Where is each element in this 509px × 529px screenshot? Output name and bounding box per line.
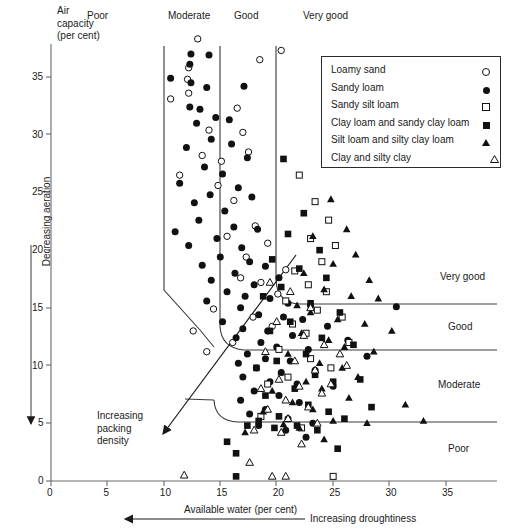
- data-point: [237, 275, 243, 281]
- data-point: [218, 158, 224, 164]
- legend-marker-filled-triangle-icon: [482, 137, 490, 148]
- data-point: [234, 105, 240, 111]
- data-point: [199, 262, 206, 269]
- data-point: [224, 233, 230, 239]
- legend-item-clay-loam-and-sandy-clay-loam[interactable]: Clay loam and sandy clay loam: [331, 115, 492, 133]
- data-point: [337, 309, 344, 316]
- series-silt-loam-and-silty-clay-loam: [241, 195, 427, 442]
- data-point: [273, 318, 281, 325]
- data-point: [233, 334, 240, 341]
- data-point: [280, 314, 287, 321]
- data-point: [262, 355, 269, 362]
- data-point: [190, 328, 196, 334]
- data-point: [186, 104, 193, 111]
- data-point: [329, 260, 337, 267]
- data-point: [336, 350, 344, 357]
- data-point: [265, 381, 271, 387]
- y-tick-label-30: 30: [32, 129, 43, 141]
- data-point: [325, 408, 332, 415]
- right-category-poor: Poor: [448, 443, 469, 455]
- data-point: [235, 360, 242, 367]
- x-tick-label-35: 35: [442, 487, 453, 499]
- data-point: [275, 375, 283, 382]
- data-point: [284, 350, 292, 357]
- x-tick-label-20: 20: [273, 487, 284, 499]
- legend-item-clay-and-silty-clay[interactable]: Clay and silty clay: [331, 150, 492, 168]
- data-point: [276, 346, 282, 352]
- data-point: [314, 307, 320, 313]
- data-point: [323, 275, 330, 282]
- data-point: [258, 279, 264, 285]
- legend-item-sandy-silt-loam[interactable]: Sandy silt loam: [331, 97, 492, 115]
- data-point: [420, 417, 428, 424]
- data-point: [206, 52, 213, 59]
- data-point: [266, 278, 274, 285]
- data-point: [167, 96, 173, 102]
- data-point: [283, 267, 289, 273]
- data-point: [226, 116, 233, 123]
- x-tick-label-25: 25: [329, 487, 340, 499]
- data-point: [187, 50, 194, 57]
- legend-item-silt-loam-and-silty-clay-loam[interactable]: Silt loam and silty clay loam: [331, 132, 492, 150]
- data-point: [231, 197, 237, 203]
- data-point: [393, 303, 400, 310]
- legend-item-label: Clay loam and sandy clay loam: [331, 117, 469, 128]
- data-point: [240, 129, 246, 135]
- data-point: [230, 224, 237, 231]
- data-point: [289, 332, 296, 339]
- packing-density-label-line-1: Increasing: [97, 410, 159, 423]
- data-point: [268, 387, 276, 394]
- data-point: [312, 199, 318, 205]
- legend-item-label: Clay and silty clay: [331, 152, 411, 163]
- y-tick-label-20: 20: [32, 244, 43, 256]
- legend-item-label: Sandy loam: [331, 82, 384, 93]
- legend-item-loamy-sand[interactable]: Loamy sand: [331, 62, 492, 80]
- data-point: [231, 270, 238, 277]
- data-point: [345, 394, 353, 401]
- data-point: [244, 351, 251, 358]
- data-point: [266, 295, 273, 302]
- data-point: [201, 164, 208, 171]
- x-axis-title: Available water (per cent): [184, 504, 297, 516]
- data-point: [207, 191, 214, 198]
- data-point: [303, 351, 310, 358]
- data-point: [282, 396, 290, 403]
- legend-box: Loamy sandSandy loamSandy silt loamClay …: [321, 56, 501, 168]
- data-point: [273, 358, 280, 365]
- data-point: [341, 415, 348, 422]
- packing-density-label-line-3: density: [97, 435, 159, 448]
- data-point: [296, 172, 302, 178]
- data-point: [361, 320, 369, 327]
- data-point: [262, 263, 269, 270]
- data-point: [204, 349, 210, 355]
- data-point: [257, 339, 264, 346]
- legend-item-label: Sandy silt loam: [331, 99, 399, 110]
- data-point: [324, 323, 331, 330]
- data-point: [199, 152, 205, 158]
- data-point: [187, 79, 194, 86]
- data-point: [195, 36, 201, 42]
- data-point: [260, 293, 267, 300]
- data-point: [217, 254, 224, 261]
- data-point: [293, 302, 301, 309]
- top-category-very-good: Very good: [303, 10, 348, 22]
- data-point: [271, 425, 278, 432]
- data-point: [296, 265, 303, 272]
- data-point: [262, 392, 269, 399]
- data-point: [325, 336, 333, 343]
- data-point: [246, 411, 253, 418]
- data-point: [193, 120, 200, 127]
- data-point: [195, 217, 202, 224]
- y-tick-label-5: 5: [38, 417, 44, 429]
- legend-marker-open-square-icon: [482, 102, 490, 113]
- data-point: [370, 348, 378, 355]
- data-point: [257, 385, 265, 392]
- data-point: [268, 472, 276, 479]
- data-point: [255, 311, 262, 318]
- data-point: [303, 434, 310, 441]
- y-tick-label-10: 10: [32, 360, 43, 372]
- data-point: [330, 473, 336, 479]
- data-point: [350, 341, 357, 348]
- legend-item-sandy-loam[interactable]: Sandy loam: [331, 80, 492, 98]
- data-point: [264, 240, 270, 246]
